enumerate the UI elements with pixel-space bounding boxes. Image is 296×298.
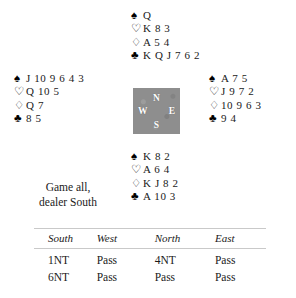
suit-row-spades: ♠ Q [131,9,200,22]
compass-north-label: N [133,93,180,103]
suit-row-spades: ♠ J 10 9 6 4 3 [14,72,84,85]
spade-icon: ♠ [131,150,142,163]
suit-row-hearts: ♡ K 8 3 [131,22,200,35]
table-row: 1NT Pass 4NT Pass [34,249,266,269]
vulnerability-text: Game all, [12,180,124,195]
south-diamonds-cards: K J 8 2 [142,177,179,190]
suit-row-diamonds: ♢ K J 8 2 [131,177,179,190]
hand-east: ♠ A 7 5 ♡ J 9 7 2 ♢ 10 9 6 3 ♣ 9 4 [209,72,262,126]
dealer-text: dealer South [12,195,124,210]
suit-row-clubs: ♣ 9 4 [209,112,262,125]
bid-cell: 6NT [34,268,97,285]
diamond-icon: ♢ [14,99,25,112]
diamond-icon: ♢ [131,177,142,190]
compass-west-label: W [138,106,148,116]
north-diamonds-cards: A 5 4 [142,36,170,49]
west-hearts-cards: Q 10 5 [25,85,60,98]
auction-header-south: South [34,229,97,249]
hand-north: ♠ Q ♡ K 8 3 ♢ A 5 4 ♣ K Q J 7 6 2 [131,9,200,63]
diamond-icon: ♢ [209,99,220,112]
compass-box: N W E S [133,88,180,134]
suit-row-hearts: ♡ A 6 4 [131,163,179,176]
auction-header-north: North [155,229,215,249]
suit-row-clubs: ♣ K Q J 7 6 2 [131,49,200,62]
west-clubs-cards: 8 5 [25,112,42,125]
suit-row-spades: ♠ A 7 5 [209,72,262,85]
east-clubs-cards: 9 4 [220,112,237,125]
south-hearts-cards: A 6 4 [142,163,170,176]
club-icon: ♣ [131,190,142,203]
deal-conditions: Game all, dealer South [12,180,124,209]
suit-row-diamonds: ♢ A 5 4 [131,36,200,49]
suit-row-hearts: ♡ J 9 7 2 [209,85,262,98]
bid-cell: Pass [215,268,266,285]
auction-table: South West North East 1NT Pass 4NT Pass … [34,228,266,285]
suit-row-clubs: ♣ A 10 3 [131,190,179,203]
suit-row-hearts: ♡ Q 10 5 [14,85,84,98]
suit-row-diamonds: ♢ Q 7 [14,99,84,112]
compass-south-label: S [133,120,180,130]
auction-header-east: East [215,229,266,249]
hand-south: ♠ K 8 2 ♡ A 6 4 ♢ K J 8 2 ♣ A 10 3 [131,150,179,204]
north-hearts-cards: K 8 3 [142,22,170,35]
heart-icon: ♡ [131,22,142,35]
spade-icon: ♠ [14,72,25,85]
south-spades-cards: K 8 2 [142,150,170,163]
auction-header-west: West [97,229,155,249]
bid-cell: Pass [97,249,155,269]
east-hearts-cards: J 9 7 2 [220,85,254,98]
suit-row-clubs: ♣ 8 5 [14,112,84,125]
club-icon: ♣ [209,112,220,125]
spade-icon: ♠ [131,9,142,22]
heart-icon: ♡ [14,85,25,98]
auction-header-row: South West North East [34,229,266,249]
table-row: 6NT Pass Pass Pass [34,268,266,285]
compass-east-label: E [169,106,175,116]
bid-cell: Pass [155,268,215,285]
bid-cell: Pass [215,249,266,269]
west-spades-cards: J 10 9 6 4 3 [25,72,84,85]
diamond-icon: ♢ [131,36,142,49]
suit-row-diamonds: ♢ 10 9 6 3 [209,99,262,112]
heart-icon: ♡ [131,163,142,176]
south-clubs-cards: A 10 3 [142,190,176,203]
north-spades-cards: Q [142,9,152,22]
club-icon: ♣ [131,49,142,62]
north-clubs-cards: K Q J 7 6 2 [142,49,200,62]
west-diamonds-cards: Q 7 [25,99,44,112]
club-icon: ♣ [14,112,25,125]
suit-row-spades: ♠ K 8 2 [131,150,179,163]
bid-cell: 4NT [155,249,215,269]
spade-icon: ♠ [209,72,220,85]
heart-icon: ♡ [209,85,220,98]
bid-cell: Pass [97,268,155,285]
bid-cell: 1NT [34,249,97,269]
hand-west: ♠ J 10 9 6 4 3 ♡ Q 10 5 ♢ Q 7 ♣ 8 5 [14,72,84,126]
east-spades-cards: A 7 5 [220,72,248,85]
east-diamonds-cards: 10 9 6 3 [220,99,262,112]
